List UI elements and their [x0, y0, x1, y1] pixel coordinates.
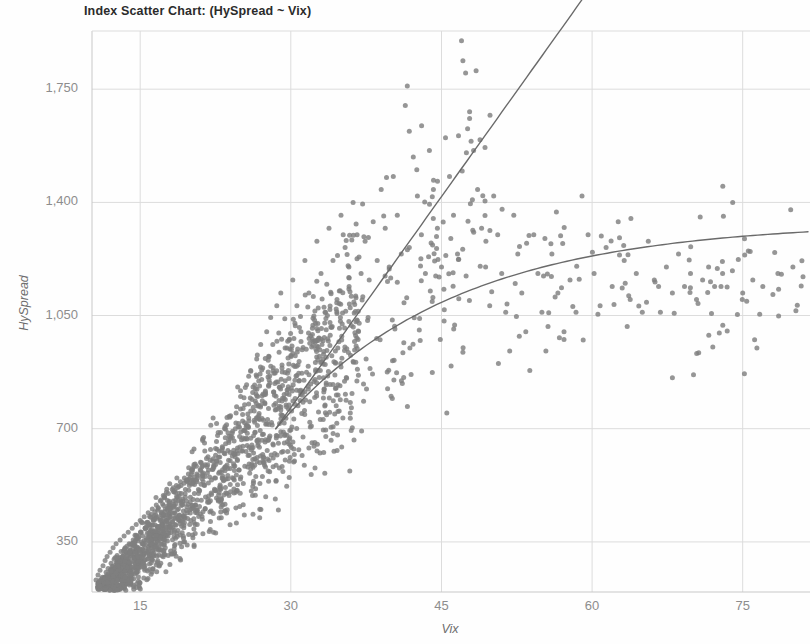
y-tick-label: 1,400: [12, 193, 78, 208]
x-tick-label: 75: [713, 598, 773, 613]
x-tick-label: 60: [562, 598, 622, 613]
y-axis-title: HySpread: [17, 263, 31, 343]
y-tick-label: 700: [12, 420, 78, 435]
plot-canvas: [0, 0, 810, 644]
x-tick-label: 45: [411, 598, 471, 613]
x-tick-label: 30: [261, 598, 321, 613]
scatter-chart: Index Scatter Chart: (HySpread ~ Vix) 35…: [0, 0, 810, 644]
y-tick-label: 350: [12, 533, 78, 548]
y-tick-label: 1,750: [12, 80, 78, 95]
linear-fit: [276, 0, 587, 429]
x-tick-label: 15: [110, 598, 170, 613]
x-axis-title: Vix: [420, 622, 480, 636]
